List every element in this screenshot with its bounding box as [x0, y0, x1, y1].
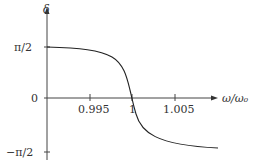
y-tick-label-zero: 0 — [31, 93, 38, 104]
y-axis-label: δ — [43, 4, 50, 15]
chart-canvas — [0, 0, 258, 168]
x-tick-label-1005: 1.005 — [163, 104, 195, 115]
phase-response-chart: δ π/2 0 −π/2 0.995 1 1.005 ω/ω₀ — [0, 0, 258, 168]
y-tick-label-bottom: −π/2 — [6, 147, 33, 158]
x-axis-arrow-icon — [211, 96, 218, 101]
x-tick-label-0995: 0.995 — [78, 104, 110, 115]
x-axis-label: ω/ω₀ — [222, 93, 248, 104]
x-tick-label-1: 1 — [129, 104, 136, 115]
y-tick-label-top: π/2 — [14, 42, 32, 53]
